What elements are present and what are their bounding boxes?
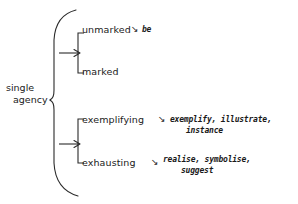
gloss-exhausting-line1: realise, symbolise,: [163, 155, 251, 164]
branch-label-exemplifying: exemplifying: [82, 114, 144, 125]
gloss-exemplifying: exemplify, illustrate, instance: [170, 115, 272, 136]
realisation-arrow-icon-exemplifying: ↘: [158, 114, 166, 124]
systemic-network-diagram: single agency unmarked ↘ be marked exemp…: [0, 0, 298, 204]
branch-label-marked: marked: [82, 66, 119, 77]
branch-label-unmarked: unmarked: [82, 24, 131, 35]
gloss-unmarked: be: [142, 25, 151, 36]
gloss-exhausting: realise, symbolise, suggest: [163, 155, 251, 176]
gloss-unmarked-line1: be: [142, 25, 151, 34]
root-node-label-line1: single: [6, 82, 34, 93]
gloss-exemplifying-line2: instance: [170, 126, 272, 137]
root-node-label: single agency: [6, 82, 48, 106]
outer-brace-upper: [50, 10, 76, 100]
realisation-arrow-icon-unmarked: ↘: [131, 24, 139, 34]
realisation-arrow-icon-exhausting: ↘: [151, 157, 159, 167]
branch-label-exhausting: exhausting: [82, 157, 136, 168]
gloss-exemplifying-line1: exemplify, illustrate,: [170, 115, 272, 124]
root-node-label-line2: agency: [6, 94, 48, 106]
gloss-exhausting-line2: suggest: [163, 166, 251, 177]
